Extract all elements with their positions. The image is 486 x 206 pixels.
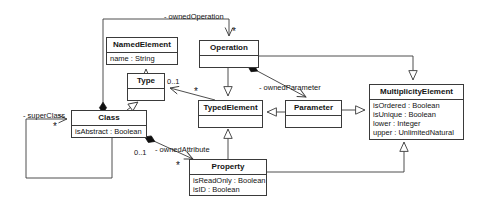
class-name-multiplicityelement: MultiplicityElement [370,85,463,99]
class-box-class[interactable]: Class isAbstract : Boolean [71,110,147,138]
edge-property-generalizes-multiplicityelement [267,142,404,172]
class-name-type: Type [128,74,164,88]
class-box-parameter[interactable]: Parameter [285,100,342,128]
multiplicity-star-operation: * [232,27,236,37]
attribute-row: upper : UnlimitedNatural [370,128,463,137]
attribute-row: name : String [107,54,177,63]
uml-class-diagram: NamedElement name : String Operation Typ… [0,0,486,206]
class-attributes-multiplicityelement: isOrdered : Boolean isUnique : Boolean l… [370,99,463,139]
class-name-typedelement: TypedElement [199,101,262,115]
multiplicity-star-type: * [194,87,198,97]
class-attributes-class: isAbstract : Boolean [72,125,146,137]
class-box-operation[interactable]: Operation [199,40,259,68]
edge-operation-generalizes-multiplicityelement [259,56,413,80]
multiplicity-label-type: 0..1 [167,78,180,86]
multiplicity-label-owned-attribute: 0..1 [134,149,147,157]
class-attributes-property: isReadOnly : Boolean isID : Boolean [190,174,266,195]
edge-label-super-class: - superClass [23,112,65,120]
class-box-property[interactable]: Property isReadOnly : Boolean isID : Boo… [189,159,267,196]
class-attributes-operation [200,55,258,67]
class-name-parameter: Parameter [286,101,341,115]
class-name-property: Property [190,160,266,174]
edge-label-owned-operation: - ownedOperation [164,13,224,21]
class-attributes-type [128,88,164,100]
attribute-row: lower : Integer [370,119,463,128]
attribute-row: isID : Boolean [190,185,266,194]
class-name-operation: Operation [200,41,258,55]
class-box-multiplicityelement[interactable]: MultiplicityElement isOrdered : Boolean … [369,84,464,140]
attribute-row: isAbstract : Boolean [72,127,146,136]
multiplicity-star-property: * [176,161,180,171]
edge-owned-parameter [248,66,306,97]
class-attributes-namedelement: name : String [107,52,177,64]
class-box-typedelement[interactable]: TypedElement [198,100,263,128]
class-attributes-parameter [286,115,341,127]
attribute-row: isOrdered : Boolean [370,101,463,110]
class-box-namedelement[interactable]: NamedElement name : String [106,37,178,65]
edge-label-owned-parameter: - ownedParameter [259,84,321,92]
multiplicity-star-super-class: * [53,122,57,132]
class-name-namedelement: NamedElement [107,38,177,52]
attribute-row: isUnique : Boolean [370,110,463,119]
class-name-class: Class [72,111,146,125]
edge-class-generalizes-type [127,102,138,110]
edge-label-owned-attribute: - ownedAttribute [155,146,210,154]
class-box-type[interactable]: Type [127,73,165,101]
edge-typedelement-type [170,88,215,100]
class-attributes-typedelement [199,115,262,127]
attribute-row: isReadOnly : Boolean [190,176,266,185]
